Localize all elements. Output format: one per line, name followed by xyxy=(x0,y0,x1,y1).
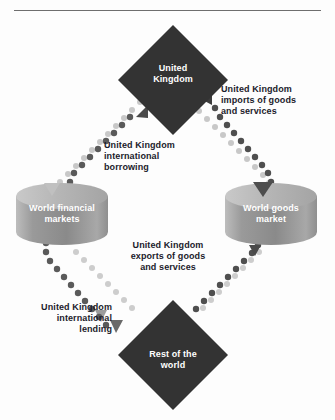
node-label-financial-line2: markets xyxy=(44,214,79,224)
node-label-goods-line2: market xyxy=(256,214,286,224)
flow-label-uk-exports-line3: and services xyxy=(140,262,196,272)
flow-path-light-uk-to-goods xyxy=(196,108,272,186)
flow-label-uk-lending-line2: international xyxy=(57,313,112,323)
node-label-uk-line2: Kingdom xyxy=(153,74,193,84)
flow-label-uk-lending-line3: lending xyxy=(79,324,112,334)
node-label-financial-markets: World financial markets xyxy=(29,203,95,225)
node-label-row-line1: Rest of the xyxy=(149,349,197,359)
flow-label-uk-borrowing: United Kingdom international borrowing xyxy=(104,140,175,173)
flow-label-uk-lending: United Kingdom international lending xyxy=(8,302,112,335)
flow-label-uk-borrowing-line3: borrowing xyxy=(104,162,149,172)
node-label-uk: United Kingdom xyxy=(153,63,193,85)
flow-label-uk-exports: United Kingdom exports of goods and serv… xyxy=(108,240,228,273)
flow-label-uk-imports-line3: and services xyxy=(221,106,277,116)
node-label-goods-line1: World goods xyxy=(243,203,299,213)
flow-label-uk-imports-line1: United Kingdom xyxy=(221,84,292,94)
flow-label-uk-exports-line2: exports of goods xyxy=(131,251,206,261)
node-label-row-line2: world xyxy=(161,360,186,370)
flow-label-uk-lending-line1: United Kingdom xyxy=(41,302,112,312)
node-label-rest-of-world: Rest of the world xyxy=(149,349,197,371)
node-label-goods-market: World goods market xyxy=(243,203,299,225)
flow-label-uk-imports: United Kingdom imports of goods and serv… xyxy=(221,84,296,117)
diagram-canvas: United Kingdom Rest of the world World f… xyxy=(0,0,335,420)
node-label-uk-line1: United xyxy=(159,63,188,73)
flow-label-uk-borrowing-line1: United Kingdom xyxy=(104,140,175,150)
flow-label-uk-exports-line1: United Kingdom xyxy=(133,240,204,250)
flow-label-uk-borrowing-line2: international xyxy=(104,151,159,161)
flow-label-uk-imports-line2: imports of goods xyxy=(221,95,296,105)
node-label-financial-line1: World financial xyxy=(29,203,95,213)
